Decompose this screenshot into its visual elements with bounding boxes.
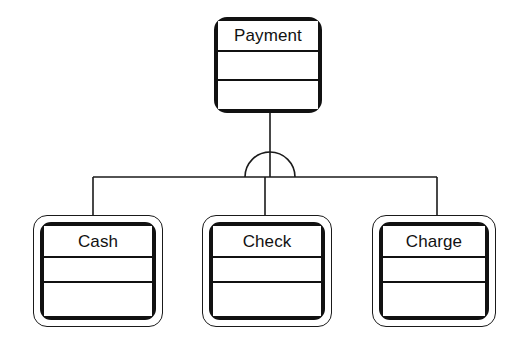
payment-name-compartment: Payment xyxy=(218,21,318,52)
check-operations-compartment xyxy=(213,283,321,316)
class-box-cash[interactable]: Cash xyxy=(33,215,163,327)
check-attributes-compartment xyxy=(213,258,321,283)
cash-operations-compartment xyxy=(44,283,152,316)
payment-operations-compartment xyxy=(218,81,318,109)
class-box-charge[interactable]: Charge xyxy=(372,215,496,327)
cash-box-body: Cash xyxy=(40,222,156,320)
class-name-cash: Cash xyxy=(78,233,118,250)
payment-attributes-compartment xyxy=(218,52,318,81)
uml-class-diagram: Payment Cash C xyxy=(0,0,519,351)
class-box-check[interactable]: Check xyxy=(202,215,332,327)
payment-box-body: Payment xyxy=(214,17,322,113)
check-box-body: Check xyxy=(209,222,325,320)
charge-box-body: Charge xyxy=(379,222,489,320)
charge-name-compartment: Charge xyxy=(383,226,485,258)
cash-attributes-compartment xyxy=(44,258,152,283)
class-name-charge: Charge xyxy=(406,233,462,250)
class-name-payment: Payment xyxy=(234,27,302,44)
class-name-check: Check xyxy=(243,233,292,250)
cash-name-compartment: Cash xyxy=(44,226,152,258)
check-name-compartment: Check xyxy=(213,226,321,258)
class-box-payment[interactable]: Payment xyxy=(214,17,322,113)
charge-attributes-compartment xyxy=(383,258,485,283)
charge-operations-compartment xyxy=(383,283,485,316)
